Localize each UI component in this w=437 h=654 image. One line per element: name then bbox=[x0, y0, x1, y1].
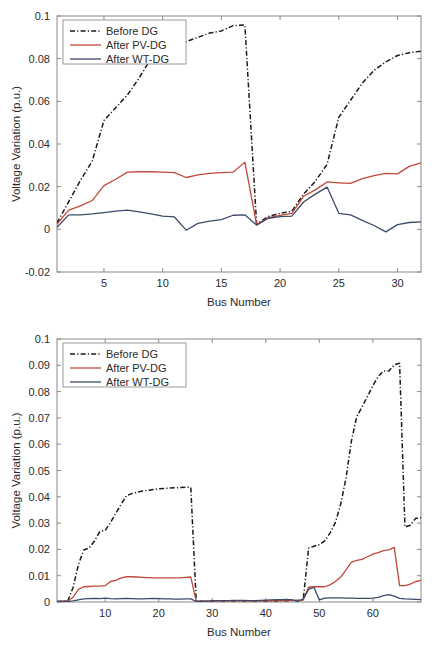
top-chart-svg: -0.0200.020.040.060.080.151015202530Bus … bbox=[0, 0, 437, 327]
x-tick-label: 30 bbox=[206, 607, 218, 619]
y-tick-label: -0.02 bbox=[25, 266, 50, 278]
y-tick-label: 0.02 bbox=[29, 543, 50, 555]
y-tick-label: 0.02 bbox=[29, 181, 50, 193]
series-line-after-pv-dg bbox=[57, 547, 421, 601]
y-tick-label: 0.08 bbox=[29, 386, 50, 398]
x-tick-label: 5 bbox=[101, 277, 107, 289]
x-tick-label: 40 bbox=[260, 607, 272, 619]
y-tick-label: 0.06 bbox=[29, 438, 50, 450]
y-axis-title: Voltage Variation (p.u.) bbox=[10, 412, 22, 528]
y-tick-label: 0 bbox=[44, 596, 50, 608]
x-axis-title: Bus Number bbox=[207, 626, 271, 638]
y-tick-label: 0 bbox=[44, 223, 50, 235]
legend-label-2: After WT-DG bbox=[106, 376, 169, 388]
y-tick-label: 0.01 bbox=[29, 570, 50, 582]
y-tick-label: 0.07 bbox=[29, 412, 50, 424]
y-tick-label: 0.1 bbox=[35, 333, 50, 345]
x-axis-title: Bus Number bbox=[207, 296, 271, 308]
legend-label-1: After PV-DG bbox=[106, 39, 167, 51]
legend-label-0: Before DG bbox=[106, 25, 158, 37]
legend-label-0: Before DG bbox=[106, 348, 158, 360]
y-axis-title: Voltage Variation (p.u.) bbox=[10, 86, 22, 202]
x-tick-label: 10 bbox=[157, 277, 169, 289]
y-tick-label: 0.04 bbox=[29, 491, 50, 503]
x-tick-label: 60 bbox=[367, 607, 379, 619]
top-chart-panel: -0.0200.020.040.060.080.151015202530Bus … bbox=[0, 0, 437, 327]
x-tick-label: 20 bbox=[274, 277, 286, 289]
x-tick-label: 30 bbox=[391, 277, 403, 289]
x-tick-label: 50 bbox=[313, 607, 325, 619]
y-tick-label: 0.09 bbox=[29, 359, 50, 371]
x-tick-label: 15 bbox=[215, 277, 227, 289]
y-tick-label: 0.03 bbox=[29, 517, 50, 529]
y-tick-label: 0.1 bbox=[35, 10, 50, 22]
x-tick-label: 20 bbox=[153, 607, 165, 619]
y-tick-label: 0.06 bbox=[29, 95, 50, 107]
x-tick-label: 10 bbox=[99, 607, 111, 619]
bottom-chart-panel: 00.010.020.030.040.050.060.070.080.090.1… bbox=[0, 327, 437, 654]
y-tick-label: 0.05 bbox=[29, 465, 50, 477]
legend-label-2: After WT-DG bbox=[106, 53, 169, 65]
y-tick-label: 0.08 bbox=[29, 53, 50, 65]
legend-label-1: After PV-DG bbox=[106, 362, 167, 374]
series-line-after-wt-dg bbox=[57, 187, 421, 232]
y-tick-label: 0.04 bbox=[29, 138, 50, 150]
series-line-before-dg bbox=[57, 363, 421, 601]
bottom-chart-svg: 00.010.020.030.040.050.060.070.080.090.1… bbox=[0, 327, 437, 654]
series-line-after-wt-dg bbox=[57, 587, 421, 601]
x-tick-label: 25 bbox=[333, 277, 345, 289]
